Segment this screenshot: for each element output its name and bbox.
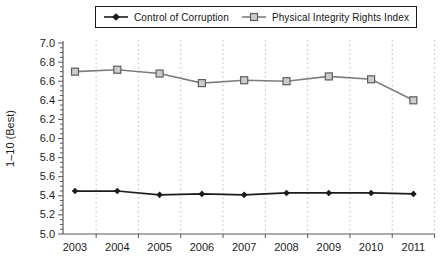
y-tick-label: 6.8 [40, 56, 55, 68]
y-tick-label: 6.4 [40, 94, 55, 106]
y-tick-label: 5.0 [40, 228, 55, 240]
legend-item-control-of-corruption: Control of Corruption [103, 12, 229, 23]
diamond-marker [410, 191, 417, 198]
legend-label-control-of-corruption: Control of Corruption [134, 12, 229, 23]
x-tick-label: 2007 [232, 241, 256, 253]
square-marker [241, 77, 248, 84]
square-marker [72, 68, 79, 75]
y-tick-label: 6.0 [40, 132, 55, 144]
legend-item-physical-integrity: Physical Integrity Rights Index [241, 12, 409, 23]
chart-canvas: 5.05.25.45.65.86.06.26.46.66.87.02003200… [0, 0, 444, 269]
diamond-marker [72, 188, 79, 195]
x-tick-label: 2005 [147, 241, 171, 253]
chart-legend: Control of Corruption Physical Integrity… [95, 6, 417, 28]
square-marker [368, 76, 375, 83]
square-marker [198, 80, 205, 87]
y-tick-label: 5.2 [40, 208, 55, 220]
diamond-marker [199, 191, 206, 198]
x-tick-label: 2008 [274, 241, 298, 253]
diamond-marker [283, 190, 290, 197]
line-chart-figure: 5.05.25.45.65.86.06.26.46.66.87.02003200… [0, 0, 444, 269]
legend-label-physical-integrity: Physical Integrity Rights Index [272, 12, 409, 23]
square-marker [156, 70, 163, 77]
series-line-square [75, 70, 413, 101]
y-tick-label: 6.6 [40, 75, 55, 87]
x-tick-label: 2004 [105, 241, 129, 253]
diamond-line-marker-icon [103, 12, 129, 22]
diamond-marker [241, 192, 248, 199]
y-tick-label: 6.2 [40, 113, 55, 125]
y-tick-label: 7.0 [40, 37, 55, 49]
square-marker [410, 97, 417, 104]
y-tick-label: 5.4 [40, 189, 55, 201]
diamond-marker [156, 192, 163, 199]
square-marker [283, 78, 290, 85]
diamond-marker [114, 188, 121, 195]
x-tick-label: 2006 [190, 241, 214, 253]
square-line-marker-icon [241, 12, 267, 22]
y-tick-label: 5.8 [40, 151, 55, 163]
x-tick-label: 2011 [402, 241, 426, 253]
diamond-marker [326, 190, 333, 197]
diamond-marker [368, 190, 375, 197]
square-marker [114, 66, 121, 73]
x-tick-label: 2003 [63, 241, 87, 253]
y-tick-label: 5.6 [40, 170, 55, 182]
y-axis-title: 1–10 (Best) [4, 110, 16, 167]
x-tick-label: 2009 [317, 241, 341, 253]
x-tick-label: 2010 [359, 241, 383, 253]
square-marker [325, 73, 332, 80]
